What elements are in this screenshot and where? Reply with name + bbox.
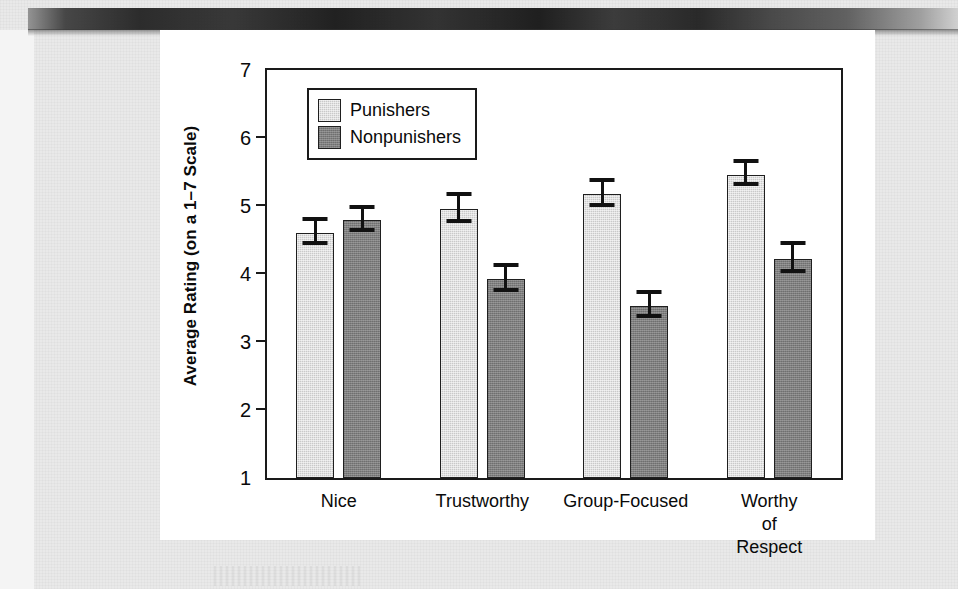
scan-left-margin <box>0 30 34 589</box>
bar-punishers <box>583 194 621 478</box>
legend-item: Punishers <box>318 97 461 124</box>
error-bar-cap-lower <box>446 219 471 223</box>
y-axis-tick-label: 3 <box>240 331 251 354</box>
y-axis-tick-label: 1 <box>240 467 251 490</box>
error-bar-cap-upper <box>780 241 805 245</box>
y-axis-tick <box>256 340 267 342</box>
x-axis-label: Nice <box>321 490 357 513</box>
error-bar-cap-upper <box>493 263 518 267</box>
error-bar-cap-lower <box>303 241 328 245</box>
bar-punishers <box>296 233 334 478</box>
y-axis-tick-label: 5 <box>240 195 251 218</box>
bar-punishers <box>727 175 765 478</box>
y-axis-title: Average Rating (on a 1–7 Scale) <box>181 106 201 406</box>
screenshot-canvas: Average Rating (on a 1–7 Scale) 1234567 … <box>0 0 958 589</box>
y-axis-tick <box>256 136 267 138</box>
bar-nonpunishers <box>343 220 381 478</box>
error-bar-cap-upper <box>637 290 662 294</box>
scan-bottom-smudge <box>214 566 364 586</box>
y-axis-tick <box>256 272 267 274</box>
error-bar-cap-lower <box>780 269 805 273</box>
x-axis-label: Group-Focused <box>563 490 688 513</box>
error-bar-cap-lower <box>733 182 758 186</box>
y-axis-tick-label: 7 <box>240 59 251 82</box>
legend-label-punishers: Punishers <box>350 100 430 121</box>
error-bar-cap-upper <box>350 205 375 209</box>
bar-group <box>554 70 698 478</box>
figure-card: Average Rating (on a 1–7 Scale) 1234567 … <box>160 30 875 540</box>
bar-nonpunishers <box>487 279 525 478</box>
y-axis-tick-label: 6 <box>240 127 251 150</box>
y-axis-tick-label: 4 <box>240 263 251 286</box>
legend-label-nonpunishers: Nonpunishers <box>350 127 461 148</box>
bar-punishers <box>440 209 478 478</box>
chart-legend: Punishers Nonpunishers <box>307 88 477 160</box>
y-axis-tick <box>256 204 267 206</box>
legend-swatch-punishers <box>318 99 341 122</box>
x-axis-label: Worthy of Respect <box>733 490 805 559</box>
error-bar-cap-upper <box>733 159 758 163</box>
legend-item: Nonpunishers <box>318 124 461 151</box>
error-bar-cap-lower <box>637 314 662 318</box>
error-bar-cap-upper <box>446 192 471 196</box>
legend-swatch-nonpunishers <box>318 126 341 149</box>
y-axis-tick <box>256 408 267 410</box>
scan-top-dark-strip <box>28 8 958 30</box>
error-bar-cap-upper <box>590 178 615 182</box>
bar-nonpunishers <box>774 259 812 478</box>
bar-nonpunishers <box>630 306 668 478</box>
y-axis-tick-label: 2 <box>240 399 251 422</box>
error-bar-cap-lower <box>493 288 518 292</box>
error-bar-cap-lower <box>350 228 375 232</box>
error-bar-cap-upper <box>303 217 328 221</box>
bar-group <box>698 70 842 478</box>
x-axis-label: Trustworthy <box>436 490 529 513</box>
plot-area: 1234567 NiceTrustworthyGroup-FocusedWort… <box>265 68 843 480</box>
error-bar-cap-lower <box>590 203 615 207</box>
